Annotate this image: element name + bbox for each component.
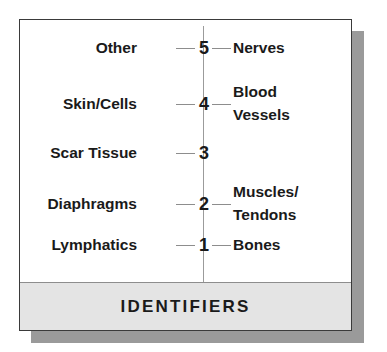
scale-plot-area: Other 5 Nerves Skin/Cells 4 Blood Vessel…	[20, 20, 351, 282]
right-label-5: Nerves	[233, 36, 363, 60]
right-label-2-line-1: Muscles/	[233, 180, 363, 203]
tick-dash-right-4	[212, 104, 231, 105]
right-label-2: Muscles/ Tendons	[233, 180, 363, 226]
identifiers-card: Other 5 Nerves Skin/Cells 4 Blood Vessel…	[19, 19, 352, 331]
footer-bar: IDENTIFIERS	[20, 283, 351, 330]
right-label-2-line-2: Tendons	[233, 203, 363, 226]
tick-dash-right-5	[212, 48, 231, 49]
left-label-2: Diaphragms	[0, 192, 137, 216]
tick-number-3: 3	[191, 140, 217, 166]
tick-dash-right-1	[212, 245, 231, 246]
left-label-3: Scar Tissue	[0, 141, 137, 165]
left-label-5: Other	[0, 36, 137, 60]
left-label-4: Skin/Cells	[0, 92, 137, 116]
right-label-4-line-1: Blood	[233, 80, 363, 103]
right-label-4: Blood Vessels	[233, 80, 363, 126]
footer-title: IDENTIFIERS	[121, 297, 251, 317]
right-label-1: Bones	[233, 233, 363, 257]
left-label-1: Lymphatics	[0, 233, 137, 257]
identifiers-figure: Other 5 Nerves Skin/Cells 4 Blood Vessel…	[0, 0, 387, 352]
tick-dash-right-2	[212, 204, 231, 205]
right-label-4-line-2: Vessels	[233, 103, 363, 126]
